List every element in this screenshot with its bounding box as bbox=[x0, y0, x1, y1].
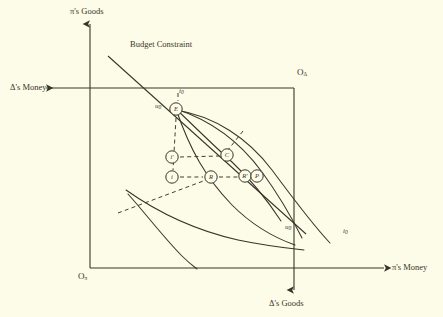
diagram-canvas bbox=[0, 0, 443, 317]
axis-label-pi-goods: π's Goods bbox=[70, 7, 103, 16]
axis-label-delta-money: Δ's Money bbox=[10, 83, 47, 92]
curve-label-u0-top: u0 bbox=[155, 103, 161, 111]
curve-label-u0-bottom: u0 bbox=[285, 224, 291, 232]
edgeworth-box-figure: E i' C i R R' P π's Goods Δ's Money π's … bbox=[0, 0, 443, 317]
origin-delta-subscript: Δ bbox=[304, 71, 308, 77]
node-label-P: P bbox=[250, 173, 264, 180]
axis-group bbox=[46, 24, 384, 290]
dashed-diagonal-lower-left bbox=[118, 180, 206, 213]
budget-constraint-line bbox=[108, 56, 306, 234]
curve-label-i0-bottom-sub: 0 bbox=[345, 229, 348, 235]
node-label-E: E bbox=[169, 106, 183, 113]
node-label-i-prime: i' bbox=[165, 154, 179, 161]
origin-label-delta: OΔ bbox=[297, 68, 307, 78]
curve-label-i0-top-sub: 0 bbox=[181, 89, 184, 95]
curve-delta-lower bbox=[126, 190, 304, 250]
node-label-R: R bbox=[204, 174, 218, 181]
node-circle-group bbox=[166, 103, 263, 183]
curve-label-u0-bottom-sub: 0 bbox=[289, 225, 292, 231]
curve-label-u0-top-sub: 0 bbox=[159, 104, 162, 110]
curve-label-i0-top: i0 bbox=[179, 88, 184, 96]
axis-label-pi-money: π's Money bbox=[392, 263, 427, 272]
indifference-curve-group bbox=[126, 109, 330, 269]
dashed-horizontal-iprime-to-C bbox=[180, 156, 219, 157]
origin-label-pi: Oπ bbox=[78, 272, 87, 282]
origin-pi-subscript: π bbox=[85, 275, 88, 281]
budget-constraint-label: Budget Constraint bbox=[130, 40, 192, 49]
curve-label-i0-bottom: i0 bbox=[343, 228, 348, 236]
node-label-C: C bbox=[220, 152, 234, 159]
node-label-i: i bbox=[165, 174, 179, 181]
axis-label-delta-goods: Δ's Goods bbox=[269, 299, 304, 308]
